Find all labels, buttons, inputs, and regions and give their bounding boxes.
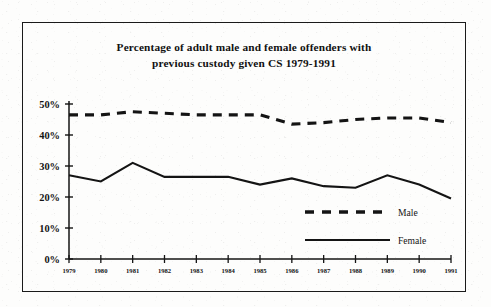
y-axis-tick-label: 40% (39, 130, 60, 141)
y-axis: 0%10%20%30%40%50% (39, 99, 73, 265)
y-axis-tick-label: 0% (44, 254, 60, 265)
x-axis-tick-label: 1987 (317, 267, 331, 274)
y-axis-tick-labels: 0%10%20%30%40%50% (39, 99, 60, 265)
series-line-female (69, 163, 451, 199)
x-axis-tick-label: 1984 (222, 267, 236, 274)
x-axis-tick-label: 1980 (94, 267, 108, 274)
x-axis-tick-labels: 1979198019811982198319841985198619871988… (62, 267, 457, 274)
y-axis-tick-label: 20% (39, 192, 60, 203)
y-axis-tick-label: 10% (39, 223, 60, 234)
x-axis-tick-label: 1986 (285, 267, 299, 274)
legend-label-male: Male (398, 207, 418, 218)
legend-label-female: Female (398, 235, 426, 246)
x-axis-tick-label: 1981 (126, 267, 139, 274)
x-axis-tick-label: 1991 (444, 267, 457, 274)
x-axis-tick-label: 1985 (253, 267, 267, 274)
x-axis: 1979198019811982198319841985198619871988… (62, 255, 457, 274)
series-line-male (69, 112, 451, 124)
x-axis-tick-label: 1982 (158, 267, 172, 274)
scanned-page: Percentage of adult male and female offe… (0, 0, 491, 307)
line-chart-plot: 0%10%20%30%40%50% 1979198019811982198319… (0, 0, 491, 307)
chart-legend: Male Female (305, 207, 426, 246)
x-axis-tick-label: 1990 (413, 267, 427, 274)
x-axis-tick-label: 1989 (381, 267, 395, 274)
y-axis-tick-label: 30% (39, 161, 60, 172)
x-axis-tick-label: 1979 (62, 267, 76, 274)
data-series-group (69, 112, 451, 199)
x-axis-tick-label: 1988 (349, 267, 363, 274)
y-axis-tick-label: 50% (39, 99, 60, 110)
x-axis-tick-label: 1983 (190, 267, 204, 274)
